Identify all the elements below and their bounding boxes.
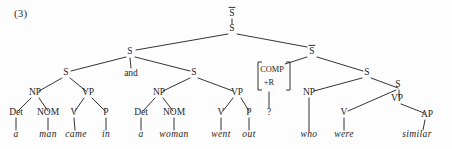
tree-node-s-top: S — [229, 23, 234, 33]
tree-terminal-w-in: in — [102, 129, 110, 139]
tree-edge — [135, 57, 190, 71]
tree-edge — [130, 58, 131, 68]
tree-node-det1: Det — [9, 107, 23, 117]
tree-edge — [317, 57, 363, 71]
tree-node-vp1: VP — [82, 87, 94, 97]
syntax-tree-diagram: SSSSSandSCOMP+RSNPVPNPVPNPVPDetNOMVPDetN… — [0, 0, 452, 149]
tree-edge — [163, 78, 190, 91]
tree-terminal-w-a2: a — [138, 129, 143, 139]
tree-node-np-rel: NP — [303, 87, 315, 97]
tree-edge — [371, 78, 398, 88]
tree-node-v-rel: V — [341, 107, 348, 117]
tree-node-ap: AP — [421, 109, 433, 119]
tree-node-np1: NP — [29, 87, 41, 97]
tree-node-nom1: NOM — [37, 107, 60, 117]
tree-terminal-w-who: who — [300, 129, 317, 139]
tree-edge — [39, 78, 62, 91]
tree-terminal-w-woman: woman — [159, 129, 188, 139]
tree-edge — [348, 90, 396, 111]
tree-node-comp-r: +R — [264, 78, 275, 87]
tree-edge — [136, 34, 228, 50]
tree-node-det2: Det — [134, 107, 148, 117]
tree-node-s-c1: S — [63, 67, 68, 77]
tree-node-v2: V — [218, 107, 225, 117]
tree-node-p2: P — [246, 107, 251, 117]
tree-node-s-inner: S — [395, 79, 400, 89]
figure-canvas: (3) SSSSSandSCOMP+RSNPVPNPVPNPVPDetNOMVP… — [0, 0, 452, 149]
tree-node-s-left: S — [127, 46, 132, 56]
tree-edge — [198, 78, 233, 91]
tree-terminal-w-man: man — [39, 129, 57, 139]
tree-node-comp: COMP — [260, 65, 284, 74]
tree-edge — [314, 78, 362, 91]
tree-edge — [71, 57, 126, 71]
tree-node-p1: P — [103, 107, 108, 117]
tree-terminal-w-out: out — [242, 129, 255, 139]
tree-node-conj: and — [124, 68, 138, 78]
tree-terminal-layer: amancameinawomanwentoutwhoweresimilar — [13, 129, 431, 139]
tree-node-root: S — [229, 8, 234, 18]
tree-node-nom2: NOM — [163, 107, 186, 117]
tree-terminal-w-were: were — [334, 129, 354, 139]
tree-node-s-rel: S — [364, 67, 369, 77]
tree-node-layer: SSSSSandSCOMP+RSNPVPNPVPNPVPDetNOMVPDetN… — [9, 7, 433, 119]
tree-node-np2: NP — [153, 87, 165, 97]
tree-terminal-w-came: came — [65, 129, 87, 139]
tree-edge — [223, 98, 233, 111]
tree-edge — [285, 57, 307, 64]
tree-edge — [237, 34, 307, 47]
tree-terminal-w-a1: a — [13, 129, 18, 139]
tree-node-v1: V — [71, 107, 78, 117]
tree-terminal-w-similar: similar — [402, 129, 432, 139]
comp-bracket-right — [286, 62, 290, 90]
tree-node-s-c2: S — [191, 67, 196, 77]
tree-terminal-w-went: went — [211, 129, 231, 139]
tree-node-vp-rel: VP — [391, 93, 403, 103]
tree-node-qmark: ? — [267, 107, 271, 117]
tree-node-vp2: VP — [231, 87, 243, 97]
tree-node-sbar-right: S — [309, 46, 314, 56]
